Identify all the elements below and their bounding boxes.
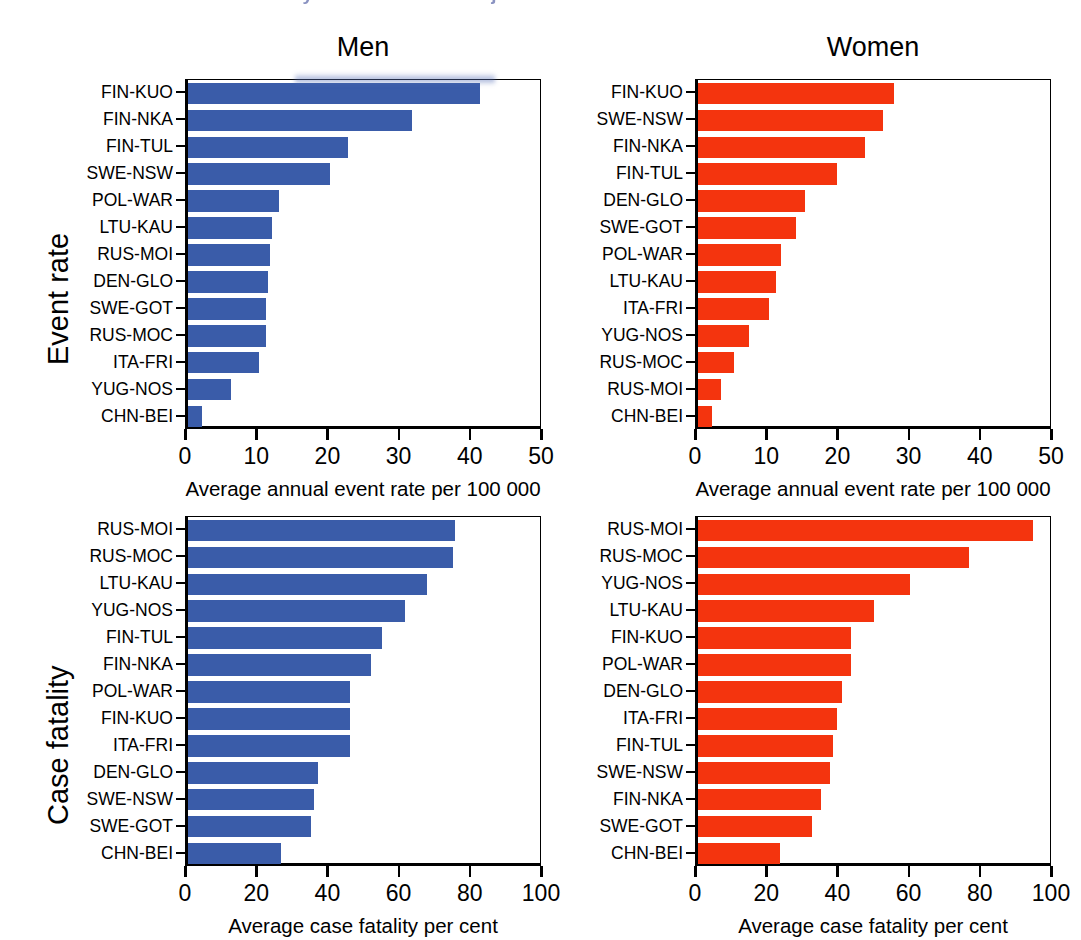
y-axis-category-label: ITA-FRI [570, 707, 683, 728]
bar-row [698, 681, 1050, 703]
y-axis-category-label: RUS-MOI [570, 519, 683, 540]
x-tick-mark [908, 866, 911, 877]
bar[interactable] [698, 762, 830, 784]
bar[interactable] [698, 547, 969, 569]
bar[interactable] [698, 520, 1033, 542]
bar-row [698, 654, 1050, 676]
y-axis-category-label: DEN-GLO [570, 681, 683, 702]
x-tick-mark [1050, 866, 1053, 877]
bar-row [698, 547, 1050, 569]
figure-monica-event-rate-case-fatality: Men Women Event rate Case fatality FIN-K… [0, 0, 1081, 940]
y-axis-category-label: SWE-GOT [570, 815, 683, 836]
bar-row [698, 600, 1050, 622]
y-tick-mark [686, 825, 695, 827]
bar[interactable] [698, 816, 812, 838]
y-tick-mark [686, 771, 695, 773]
bar[interactable] [698, 708, 837, 730]
bar[interactable] [698, 654, 851, 676]
bar[interactable] [698, 574, 910, 596]
y-tick-mark [686, 636, 695, 638]
y-axis-category-label: SWE-NSW [570, 761, 683, 782]
x-tick-mark [979, 866, 982, 877]
bar[interactable] [698, 600, 874, 622]
x-tick-mark [694, 866, 697, 877]
bar-row [698, 816, 1050, 838]
bar-row [698, 520, 1050, 542]
x-tick-label: 60 [896, 880, 922, 907]
bar-series [698, 517, 1050, 863]
x-tick-label: 80 [967, 880, 993, 907]
y-tick-mark [686, 582, 695, 584]
y-tick-mark [686, 852, 695, 854]
bar-row [698, 789, 1050, 811]
y-tick-mark [686, 609, 695, 611]
bar[interactable] [698, 681, 842, 703]
y-tick-mark [686, 690, 695, 692]
x-tick-label: 0 [689, 880, 702, 907]
y-tick-mark [686, 555, 695, 557]
y-axis-category-label: RUS-MOC [570, 546, 683, 567]
y-tick-mark [686, 744, 695, 746]
x-tick-label: 100 [1032, 880, 1070, 907]
y-tick-mark [686, 528, 695, 530]
x-tick-label: 40 [825, 880, 851, 907]
bar-row [698, 843, 1050, 865]
bar[interactable] [698, 789, 821, 811]
y-tick-mark [686, 798, 695, 800]
bar[interactable] [698, 627, 851, 649]
bar[interactable] [698, 735, 833, 757]
y-axis-category-label: FIN-TUL [570, 734, 683, 755]
y-tick-mark [686, 717, 695, 719]
plot-area [695, 516, 1051, 866]
y-axis-category-label: FIN-NKA [570, 788, 683, 809]
y-axis-category-label: POL-WAR [570, 654, 683, 675]
bar-row [698, 735, 1050, 757]
panel-women-case-fatality: RUS-MOIRUS-MOCYUG-NOSLTU-KAUFIN-KUOPOL-W… [0, 0, 1081, 940]
y-axis-category-label: FIN-KUO [570, 627, 683, 648]
bar[interactable] [698, 843, 780, 865]
bar-row [698, 762, 1050, 784]
x-tick-mark [765, 866, 768, 877]
x-tick-label: 20 [753, 880, 779, 907]
bar-row [698, 627, 1050, 649]
y-tick-mark [686, 663, 695, 665]
y-axis-category-label: LTU-KAU [570, 600, 683, 621]
y-axis-category-label: YUG-NOS [570, 573, 683, 594]
x-axis-title: Average case fatality per cent [738, 914, 1008, 938]
x-tick-mark [836, 866, 839, 877]
bar-row [698, 708, 1050, 730]
bar-row [698, 574, 1050, 596]
y-axis-category-label: CHN-BEI [570, 842, 683, 863]
